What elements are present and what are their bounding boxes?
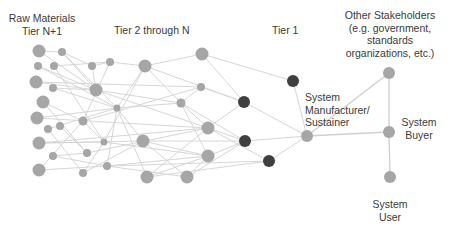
node-a19	[83, 149, 91, 157]
edge-a4-a17	[54, 66, 104, 142]
node-a17	[101, 139, 108, 146]
edge-a11-b4	[117, 103, 181, 108]
node-a7	[30, 76, 43, 89]
node-b5	[202, 122, 215, 135]
node-b7	[202, 150, 215, 163]
node-b1	[139, 60, 152, 73]
edge-a18-a19	[53, 153, 87, 156]
label-system-buyer: System Buyer	[398, 116, 440, 141]
edge-t2-m	[244, 102, 307, 136]
label-system-user: System User	[370, 198, 410, 223]
label-other-stakeholders: Other Stakeholders (e.g. government, sta…	[338, 9, 442, 59]
node-t2	[238, 96, 250, 108]
node-b3	[197, 83, 205, 91]
node-a9	[90, 84, 103, 97]
edge-t4-m	[269, 136, 307, 161]
edge-a17-a21	[83, 142, 104, 173]
node-a2	[58, 48, 66, 56]
edge-a7-b3	[36, 82, 201, 87]
node-buy	[383, 126, 395, 138]
node-a4	[50, 62, 58, 70]
node-a12	[31, 112, 44, 125]
edge-buy-u	[389, 132, 390, 177]
edge-b9-t3	[187, 141, 245, 177]
node-a16	[33, 137, 46, 150]
edge-a14-a21	[48, 129, 83, 173]
edge-a21-b6	[83, 141, 143, 173]
node-a20	[33, 164, 46, 177]
label-tier-1: Tier 1	[272, 24, 298, 37]
label-tier-2-through-n: Tier 2 through N	[114, 24, 189, 37]
node-a15	[56, 122, 64, 130]
node-a10	[37, 96, 50, 109]
node-a18	[49, 152, 57, 160]
node-b2	[196, 48, 209, 61]
node-a13	[79, 117, 88, 126]
node-a3	[34, 62, 42, 70]
node-b8	[141, 171, 154, 184]
node-t1	[287, 75, 299, 87]
edge-a20-a22	[39, 166, 107, 170]
node-a21	[79, 169, 87, 177]
edge-a1-a9	[39, 51, 96, 90]
node-t4	[263, 155, 275, 167]
node-u	[384, 171, 396, 183]
node-s	[383, 67, 395, 79]
edge-b2-t1	[202, 54, 293, 81]
node-a11	[114, 105, 121, 112]
edge-m-buy	[307, 132, 389, 136]
node-b4	[177, 99, 186, 108]
node-a6	[106, 58, 114, 66]
node-b9	[181, 171, 194, 184]
edge-a10-a13	[43, 102, 83, 121]
node-a8	[49, 84, 57, 92]
node-a1	[33, 45, 46, 58]
node-m	[301, 130, 313, 142]
node-a5	[88, 62, 96, 70]
edge-t3-m	[245, 136, 307, 141]
node-a14	[44, 125, 52, 133]
node-t3	[239, 135, 251, 147]
node-b6	[137, 135, 150, 148]
label-raw-materials: Raw Materials Tier N+1	[2, 12, 82, 37]
edge-b5-t2	[208, 102, 244, 128]
edge-b1-b2	[145, 54, 202, 66]
node-a22	[103, 162, 111, 170]
label-system-manufacturer: System Manufacturer/ Sustainer	[305, 91, 370, 129]
